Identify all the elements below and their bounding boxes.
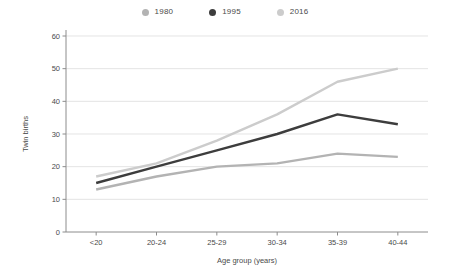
y-tick-label: 20 <box>52 162 60 171</box>
y-tick-label: 60 <box>52 32 60 41</box>
y-tick-label: 50 <box>52 64 60 73</box>
x-tick-label: 20-24 <box>147 238 166 247</box>
y-axis-title: Twin births <box>21 116 30 152</box>
x-tick-label: <20 <box>90 238 103 247</box>
y-tick-label: 40 <box>52 97 60 106</box>
y-tick-label: 0 <box>56 228 60 237</box>
y-tick-label: 30 <box>52 130 60 139</box>
gridlines <box>66 36 428 199</box>
y-tick-label: 10 <box>52 195 60 204</box>
twin-births-line-chart: 1980 1995 2016 0102030405060 <2020-2425-… <box>0 0 450 279</box>
x-axis-ticks: <2020-2425-2930-3435-3940-44 <box>90 232 408 247</box>
data-series-group <box>96 69 398 190</box>
x-tick-label: 30-34 <box>268 238 287 247</box>
x-axis-title: Age group (years) <box>217 256 278 265</box>
plot-svg: 0102030405060 <2020-2425-2930-3435-3940-… <box>0 0 450 279</box>
x-tick-label: 40-44 <box>388 238 407 247</box>
x-tick-label: 25-29 <box>207 238 226 247</box>
y-axis-ticks: 0102030405060 <box>52 32 66 237</box>
x-tick-label: 35-39 <box>328 238 347 247</box>
plot-area-wrapper: 0102030405060 <2020-2425-2930-3435-3940-… <box>0 0 450 279</box>
series-line-1995 <box>96 114 398 183</box>
series-line-2016 <box>96 69 398 177</box>
